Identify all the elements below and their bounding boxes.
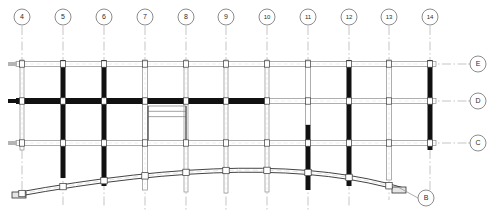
node-2-2 <box>102 140 107 146</box>
node-0-0 <box>20 61 25 67</box>
arch-bearing-6 <box>264 167 270 173</box>
arch-bearing-3 <box>142 173 148 179</box>
node-5-0 <box>224 61 229 67</box>
grid-bubble-13-label: 13 <box>386 14 393 20</box>
col-5 <box>61 60 66 178</box>
grid-bubble-C-label: C <box>475 139 480 146</box>
node-3-0 <box>143 61 148 67</box>
node-9-1 <box>387 98 392 104</box>
node-4-0 <box>184 61 189 67</box>
grid-bubble-6-label: 6 <box>102 13 106 20</box>
col-11-solid <box>306 125 311 190</box>
arch-bearing-4 <box>183 169 189 175</box>
node-5-2 <box>224 140 229 146</box>
grid-bubble-8-label: 8 <box>184 13 188 20</box>
grid-bubble-4-label: 4 <box>20 13 24 20</box>
node-7-0 <box>306 61 311 67</box>
node-1-1 <box>61 98 66 104</box>
node-1-0 <box>61 61 66 67</box>
node-3-2 <box>143 140 148 146</box>
node-9-2 <box>387 140 392 146</box>
beam-stub-left-1 <box>8 99 17 103</box>
col-11-hollow <box>306 60 311 125</box>
node-4-2 <box>184 140 189 146</box>
structural-framing-plan: 4567891011121314EDCB <box>0 0 494 221</box>
grid-bubble-D-label: D <box>475 97 480 104</box>
node-0-2 <box>20 140 25 146</box>
node-4-1 <box>184 98 189 104</box>
arch-bearing-2 <box>101 177 107 183</box>
col-6 <box>102 60 107 186</box>
beam-D-solid-left <box>16 98 267 104</box>
node-8-0 <box>347 61 352 67</box>
node-5-1 <box>224 98 229 104</box>
arch-bearing-5 <box>223 167 229 173</box>
node-10-2 <box>428 140 433 146</box>
grid-bubble-B-label: B <box>424 194 429 201</box>
node-3-1 <box>143 98 148 104</box>
node-6-1 <box>265 98 270 104</box>
beam-stub-left-0 <box>8 62 17 66</box>
node-7-2 <box>306 140 311 146</box>
grid-bubble-14-label: 14 <box>427 14 434 20</box>
node-2-1 <box>102 98 107 104</box>
node-6-0 <box>265 61 270 67</box>
arch-bearing-7 <box>305 169 311 175</box>
node-10-1 <box>428 98 433 104</box>
grid-bubble-5-label: 5 <box>61 13 65 20</box>
grid-bubble-12-label: 12 <box>346 14 353 20</box>
node-7-1 <box>306 98 311 104</box>
grid-bubble-E-label: E <box>476 60 481 67</box>
node-2-0 <box>102 61 107 67</box>
grid-bubble-7-label: 7 <box>143 13 147 20</box>
grid-bubble-11-label: 11 <box>305 14 312 20</box>
node-8-2 <box>347 140 352 146</box>
arch-bearing-8 <box>346 174 352 180</box>
drawing-background <box>0 0 494 221</box>
node-1-2 <box>61 140 66 146</box>
arch-bearing-9 <box>386 183 392 189</box>
arch-bearing-0 <box>19 190 25 196</box>
arch-bearing-1 <box>60 183 66 189</box>
col-14 <box>428 60 433 150</box>
grid-bubble-10-label: 10 <box>264 14 271 20</box>
node-8-1 <box>347 98 352 104</box>
node-9-0 <box>387 61 392 67</box>
node-0-1 <box>20 98 25 104</box>
beam-stub-left-2 <box>8 141 17 145</box>
node-10-0 <box>428 61 433 67</box>
node-6-2 <box>265 140 270 146</box>
col-12 <box>347 60 352 186</box>
grid-bubble-9-label: 9 <box>224 13 228 20</box>
